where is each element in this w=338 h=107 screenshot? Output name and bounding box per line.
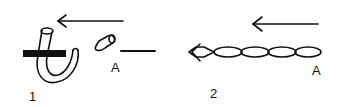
diagram-drawing (0, 0, 338, 107)
diagram: A 1 A 2 (0, 0, 338, 107)
figure-number-2: 2 (210, 87, 217, 100)
arrow-icon-fig1 (58, 15, 123, 27)
bar (23, 50, 66, 57)
arrow-icon-fig2 (253, 17, 318, 31)
segment-chain (189, 44, 321, 61)
figure-number-1: 1 (29, 90, 36, 103)
label-a-fig1: A (111, 61, 120, 74)
label-a-fig2: A (312, 64, 321, 77)
segment-a-fig1 (95, 35, 115, 50)
